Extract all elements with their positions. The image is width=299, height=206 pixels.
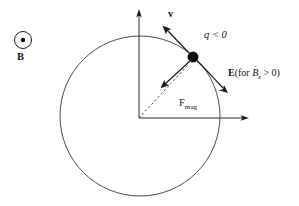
electric-field-arrowhead (219, 85, 228, 93)
charged-particle-dot (188, 52, 198, 62)
diagram-canvas (0, 0, 299, 206)
magnetic-force-subscript: mag (185, 103, 197, 111)
b-field-label: B (17, 52, 24, 63)
x-axis (139, 115, 249, 121)
electric-field-label: E(for ˙Bz > 0) (228, 68, 280, 81)
magnetic-force-label: Fmag (179, 98, 197, 111)
b-field-out-of-page-icon (15, 32, 32, 49)
electric-field-condition-open: (for (235, 67, 253, 78)
charge-sign-label: q < 0 (204, 30, 227, 41)
electric-field-vector (197, 61, 228, 93)
y-axis (136, 9, 142, 118)
electric-field-symbol: E (228, 67, 235, 78)
bdot-symbol: ˙B (252, 68, 258, 78)
b-field-center-dot (21, 38, 25, 42)
time-derivative-dot-icon: ˙ (254, 66, 257, 74)
magnetic-force-vector (161, 61, 191, 88)
physics-diagram-figure: B v q < 0 E(for ˙Bz > 0) Fmag (0, 0, 299, 206)
velocity-label: v (168, 9, 173, 20)
electric-field-condition-close: > 0) (261, 67, 280, 78)
